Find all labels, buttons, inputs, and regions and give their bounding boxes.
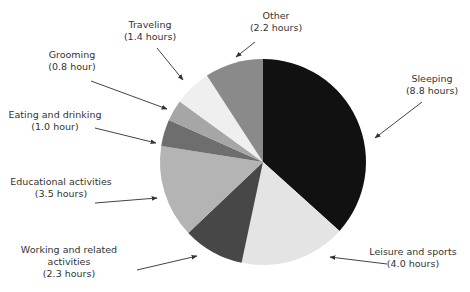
label-other: Other (2.2 hours): [250, 10, 302, 34]
arrow-other: [236, 42, 255, 57]
arrow-traveling: [157, 48, 183, 80]
label-working: Working and related activities (2.3 hour…: [21, 244, 117, 280]
arrow-grooming: [91, 81, 167, 109]
label-leisure: Leisure and sports (4.0 hours): [369, 246, 456, 270]
label-eating: Eating and drinking (1.0 hour): [9, 109, 102, 133]
label-educational: Educational activities (3.5 hours): [10, 176, 112, 200]
arrow-sleeping: [375, 102, 422, 138]
pie-slices: [160, 59, 366, 265]
label-grooming: Grooming (0.8 hour): [48, 49, 95, 73]
arrow-eating: [95, 128, 156, 143]
arrow-working: [137, 256, 197, 270]
label-traveling: Traveling (1.4 hours): [124, 19, 176, 43]
label-sleeping: Sleeping (8.8 hours): [406, 73, 458, 97]
